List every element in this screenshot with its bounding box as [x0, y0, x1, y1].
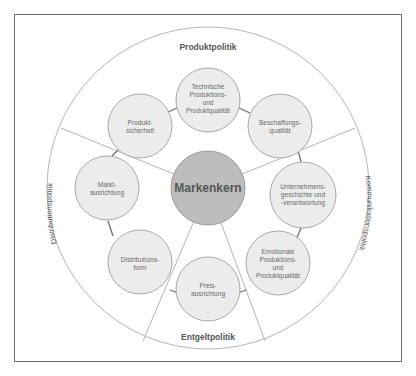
svg-text:Produktions-: Produktions- — [189, 91, 226, 98]
svg-text:Technische: Technische — [192, 83, 225, 90]
svg-text:Emotionale: Emotionale — [262, 248, 295, 255]
svg-text:form: form — [133, 264, 147, 271]
svg-text:sicherheit: sicherheit — [126, 127, 154, 134]
svg-text:Unternehmens-: Unternehmens- — [280, 183, 325, 190]
center-label: Markenkern — [174, 181, 241, 195]
node-markt — [75, 156, 139, 220]
segment-label-entgeltpolitik: Entgeltpolitik — [181, 332, 235, 342]
svg-text:Produktqualität: Produktqualität — [186, 107, 230, 115]
brand-core-diagram: Markenkern Technische Produktions- und P… — [0, 0, 416, 376]
svg-text:Produktqualität: Produktqualität — [256, 272, 300, 280]
svg-text:Produkt-: Produkt- — [128, 119, 153, 126]
svg-text:Produktions-: Produktions- — [259, 256, 296, 263]
svg-text:ausrichtung: ausrichtung — [90, 189, 124, 197]
node-produktsicherheit — [108, 94, 172, 158]
svg-text:-verantwortung: -verantwortung — [281, 199, 325, 207]
svg-text:Distributions-: Distributions- — [121, 256, 159, 263]
svg-text:qualität: qualität — [269, 127, 290, 135]
svg-text:Preis-: Preis- — [199, 282, 216, 289]
svg-text:geschichte und: geschichte und — [281, 191, 326, 199]
svg-text:ausrichtung: ausrichtung — [191, 290, 225, 298]
svg-text:Markt-: Markt- — [98, 181, 117, 188]
svg-text:und: und — [202, 99, 213, 106]
segment-label-produktpolitik: Produktpolitik — [179, 42, 236, 52]
svg-text:und: und — [272, 264, 283, 271]
node-beschaffung — [248, 94, 312, 158]
node-preis — [176, 257, 240, 321]
node-emotionale — [246, 231, 310, 295]
svg-text:Beschaffungs-: Beschaffungs- — [259, 119, 301, 127]
